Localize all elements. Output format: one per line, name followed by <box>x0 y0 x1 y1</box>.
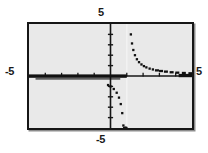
y-axis-max-label: 5 <box>98 7 104 18</box>
x-axis-max-label: 5 <box>196 66 202 77</box>
plot-area <box>27 22 194 130</box>
plot-graphics <box>29 24 192 128</box>
chart-canvas: 5 -5 -5 5 <box>0 0 208 153</box>
y-axis-min-label: -5 <box>96 134 105 145</box>
horizontal-asymptote-trace <box>29 74 192 80</box>
x-axis-min-label: -5 <box>5 66 14 77</box>
curve-points <box>107 33 192 128</box>
